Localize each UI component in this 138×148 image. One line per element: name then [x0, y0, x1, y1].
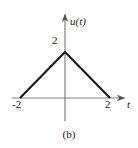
y-axis-label: u(t) [70, 16, 86, 27]
x-axis-tick-label-2: 2 [105, 99, 111, 110]
y-axis-tick-label-2: 2 [52, 35, 58, 46]
x-axis-tick-label-neg2: -2 [12, 99, 21, 110]
triangular-waveform-plot [0, 0, 138, 148]
x-axis-label: t [127, 99, 130, 110]
figure-caption: (b) [0, 129, 138, 140]
figure-container: u(t) t 2 -2 2 (b) [0, 0, 138, 148]
